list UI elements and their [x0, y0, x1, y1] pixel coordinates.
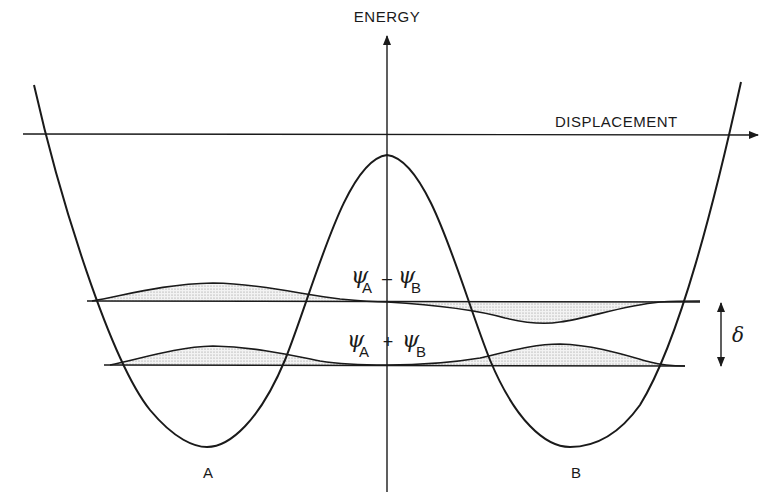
double-well-diagram: ENERGY DISPLACEMENT A B ψ A – ψ B ψ A + … — [0, 0, 762, 499]
lower-energy-level — [104, 365, 685, 366]
well-a-label: A — [203, 464, 213, 481]
wavefunction-symmetric — [110, 344, 685, 366]
upper-energy-level — [87, 301, 700, 302]
well-b-label: B — [571, 464, 581, 481]
psi-subscript-b: B — [416, 343, 426, 360]
splitting-delta-label: δ — [732, 323, 744, 347]
displacement-axis-label: DISPLACEMENT — [555, 113, 678, 130]
plus-operator: + — [383, 332, 394, 352]
psi-subscript-b: B — [411, 279, 421, 296]
psi-subscript-a: A — [362, 279, 372, 296]
energy-axis-label: ENERGY — [354, 8, 420, 25]
psi-minus-right-lobe — [387, 301, 700, 323]
antisymmetric-state-label: ψ A – ψ B — [351, 263, 421, 296]
psi-subscript-a: A — [359, 343, 369, 360]
displacement-axis — [23, 134, 758, 135]
minus-operator: – — [382, 268, 392, 288]
wavefunction-antisymmetric — [92, 283, 700, 323]
psi-plus-right-lobe — [387, 344, 685, 366]
